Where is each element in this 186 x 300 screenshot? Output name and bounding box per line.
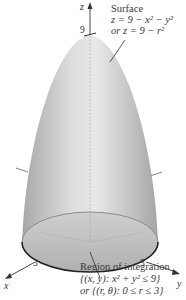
paraboloid-figure: z x y 9 3 3 Surface z = 9 − x² − y² or z… — [0, 0, 186, 300]
surface-leader-line — [110, 40, 125, 62]
y-axis-label: y — [177, 278, 181, 289]
region-set-polar: or {(r, θ): 0 ≤ r ≤ 3} — [80, 285, 163, 296]
z-axis-label: z — [80, 1, 84, 12]
paraboloid-svg — [0, 0, 186, 300]
x-axis-label: x — [4, 280, 8, 291]
region-set-cartesian: {(x, y): x² + y² ≤ 9} — [80, 273, 160, 284]
region-title: Region of integration — [80, 261, 170, 272]
x-axis — [8, 262, 35, 277]
y-axis-arrow — [172, 269, 180, 275]
surface-equation-polar: or z = 9 − r² — [111, 25, 164, 36]
x-axis-arrow — [5, 273, 12, 279]
x-axis-back — [16, 168, 28, 172]
surface-title: Surface — [111, 3, 143, 14]
x-tick-label: 3 — [33, 258, 38, 268]
y-axis-back — [150, 172, 162, 176]
z-axis-arrow — [88, 2, 93, 9]
surface-equation-cartesian: z = 9 − x² − y² — [111, 14, 173, 25]
z-tick-label: 9 — [80, 25, 85, 35]
